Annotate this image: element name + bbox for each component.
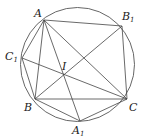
label-B1: B1 <box>121 10 135 24</box>
label-C1: C1 <box>5 50 18 64</box>
label-A: A <box>33 7 42 20</box>
segment-C-A1 <box>80 99 127 121</box>
segment-B1-B <box>35 26 122 99</box>
segment-B1-C <box>122 26 127 99</box>
label-C: C <box>129 101 138 114</box>
label-B: B <box>23 101 32 114</box>
point-labels: AB1C1IBCA1 <box>5 7 138 138</box>
label-I: I <box>61 60 67 73</box>
segment-A-B1 <box>44 20 122 26</box>
segment-C1-C <box>22 58 127 99</box>
label-A1: A1 <box>71 124 84 138</box>
segment-A-B <box>35 20 44 99</box>
geometry-diagram: AB1C1IBCA1 <box>0 0 148 140</box>
